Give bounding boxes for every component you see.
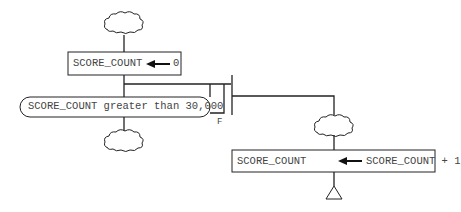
condition-text: SCORE_COUNT greater than 30,000 — [28, 100, 223, 112]
cloud-icon-top — [104, 12, 143, 34]
false-label: F — [217, 117, 222, 127]
increment-value: SCORE_COUNT + 1 — [336, 155, 461, 167]
increment-target: SCORE_COUNT — [237, 155, 306, 167]
init-target: SCORE_COUNT — [73, 57, 142, 69]
cloud-icon-right — [314, 115, 353, 137]
triangle-end-icon — [326, 186, 342, 199]
cloud-icon-bottom — [104, 130, 143, 152]
init-value: 0 — [173, 57, 179, 69]
